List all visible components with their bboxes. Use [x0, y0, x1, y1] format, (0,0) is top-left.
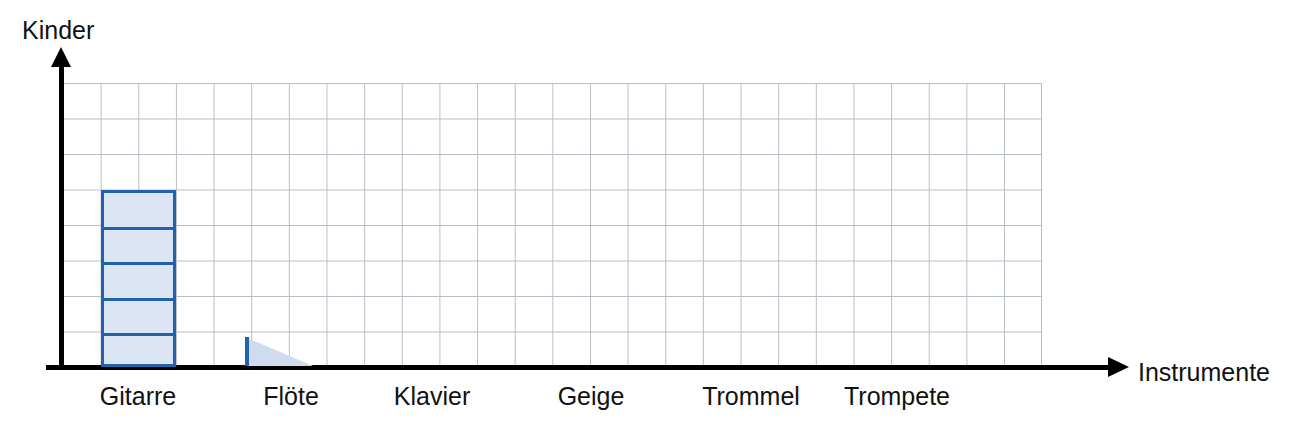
bar-gitarre[interactable]: [101, 190, 176, 368]
x-axis-label-trommel: Trommel: [702, 384, 800, 409]
x-axis-label-flte: Flöte: [263, 384, 319, 409]
wedge-fill: [245, 337, 313, 366]
x-axis-label-geige: Geige: [558, 384, 625, 409]
bar-floete-partial-wedge[interactable]: [245, 337, 313, 366]
y-axis-line: [59, 62, 64, 369]
x-axis-label-klavier: Klavier: [394, 384, 470, 409]
bar-segment-divider: [101, 262, 176, 265]
bar-chart-canvas: Kinder Instrumente GitarreFlöteKlavierGe…: [0, 0, 1289, 438]
bar-segment-divider: [101, 333, 176, 336]
y-axis-arrow-icon: [51, 47, 71, 67]
grid-top-edge: [63, 83, 1042, 84]
y-axis-title: Kinder: [22, 18, 94, 43]
bar-segment-divider: [101, 227, 176, 230]
x-axis-line: [46, 365, 1110, 370]
wedge-stem: [245, 337, 249, 366]
x-axis-arrow-icon: [1108, 357, 1129, 377]
grid-lines: [63, 83, 1042, 367]
x-axis-label-gitarre: Gitarre: [100, 384, 176, 409]
x-axis-title: Instrumente: [1138, 360, 1270, 385]
grid-right-edge: [1041, 83, 1042, 367]
bar-segment-divider: [101, 298, 176, 301]
x-axis-label-trompete: Trompete: [844, 384, 950, 409]
plot-area[interactable]: [63, 83, 1042, 367]
